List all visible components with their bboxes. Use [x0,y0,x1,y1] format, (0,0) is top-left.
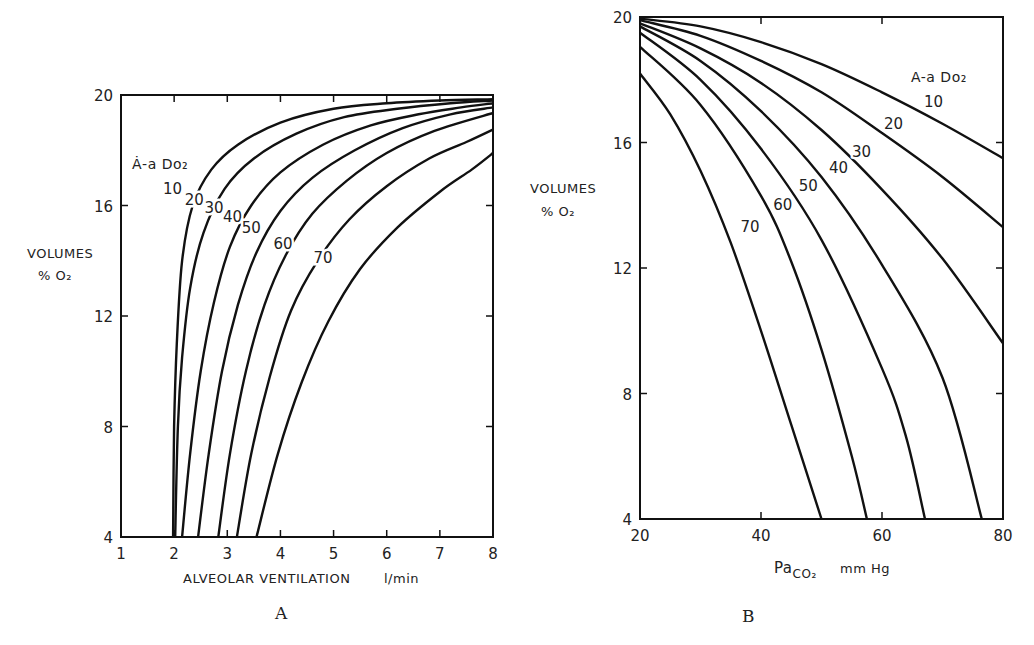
chart-b-curve-label: 70 [741,218,760,236]
chart-a-curve-30 [182,103,493,537]
chart-a-curve-label: 40 [223,208,242,226]
chart-a-ytick-label: 12 [94,308,113,326]
chart-b-curve-50 [640,33,925,519]
chart-b-xtick-label: 40 [751,527,770,545]
chart-a-ytick-label: 4 [103,529,113,547]
chart-b-xlabel-sub: CO₂ [793,567,817,581]
chart-a-curve-10 [173,99,493,537]
chart-a-xtick-label: 6 [382,545,392,563]
chart-b-curve-60 [640,47,867,519]
chart-a-curve-label: 30 [204,199,223,217]
chart-a-ylabel-line1: VOLUMES [27,246,93,261]
chart-b-curves [640,19,1003,519]
chart-a-xlabel: ALVEOLAR VENTILATION [183,571,350,586]
chart-a-ytick-label: 20 [94,87,113,105]
chart-b-ytick-label: 12 [613,260,632,278]
chart-b-xtick-label: 60 [872,527,891,545]
chart-a-xtick-label: 8 [488,545,498,563]
chart-b-ytick-label: 8 [622,386,632,404]
chart-b-ytick-label: 20 [613,9,632,27]
chart-b-ticks: 2040608048121620 [613,9,1013,545]
chart-a: 1234567848121620 10203040506070 VOLUMES … [27,87,498,623]
chart-a-curve-50 [218,113,493,537]
chart-a-xlabel-unit: l/min [384,571,419,586]
chart-b-panel-label: B [742,606,755,626]
chart-b-curve-label: 10 [924,93,943,111]
chart-b-xtick-label: 80 [993,527,1012,545]
chart-a-curve-20 [175,101,493,538]
chart-b-xlabel: PaCO₂ [774,559,817,581]
chart-a-ytick-label: 8 [103,419,113,437]
chart-b-ylabel-line2: % O₂ [541,204,575,219]
chart-a-curve-label: 50 [242,219,261,237]
chart-b-xlabel-unit: mm Hg [840,561,890,576]
chart-a-panel-label: A [274,603,288,623]
chart-b-xlabel-main: Pa [774,559,793,577]
chart-b-legend-title: A-a Do₂ [911,69,967,85]
chart-b-curve-label: 20 [884,115,903,133]
chart-b-curve-20 [640,20,1003,227]
chart-a-xtick-label: 4 [276,545,286,563]
chart-a-ytick-label: 16 [94,198,113,216]
chart-b-xtick-label: 20 [630,527,649,545]
chart-b-curve-10 [640,19,1003,159]
chart-a-legend-title: Ȧ-a Do₂ [132,155,188,172]
chart-a-xtick-label: 2 [169,545,179,563]
chart-a-curve-label: 70 [313,249,332,267]
chart-a-curve-60 [237,130,493,538]
chart-a-curve-label: 10 [163,180,182,198]
chart-a-xtick-label: 5 [329,545,339,563]
chart-a-curve-40 [198,107,493,537]
figure: 1234567848121620 10203040506070 VOLUMES … [0,0,1034,645]
chart-a-xtick-label: 3 [223,545,233,563]
chart-b: 2040608048121620 10203040506070 VOLUMES … [530,9,1013,626]
chart-b-curve-label: 60 [773,196,792,214]
chart-b-curve-label: 50 [799,177,818,195]
chart-b-ytick-label: 4 [622,511,632,529]
chart-a-curve-label: 20 [185,191,204,209]
chart-b-curve-label: 30 [852,143,871,161]
chart-a-curves [173,99,493,537]
chart-b-curve-70 [640,74,822,520]
chart-b-curve-label: 40 [829,159,848,177]
chart-b-ytick-label: 16 [613,135,632,153]
chart-a-xtick-label: 7 [435,545,445,563]
chart-b-ylabel-line1: VOLUMES [530,181,596,196]
chart-a-curve-label: 60 [274,235,293,253]
chart-a-ylabel-line2: % O₂ [38,268,72,283]
chart-a-xtick-label: 1 [116,545,126,563]
chart-a-curve-70 [257,153,494,537]
